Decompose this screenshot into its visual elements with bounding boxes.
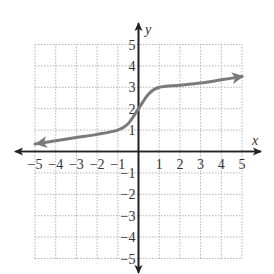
x-tick-label: 1 (156, 157, 163, 172)
y-tick-label: −5 (121, 252, 136, 267)
x-axis-label: x (251, 133, 259, 148)
y-tick-label: −4 (121, 230, 136, 245)
x-tick-label: −3 (69, 157, 84, 172)
y-tick-label: 3 (129, 80, 136, 95)
y-tick-label: −1 (121, 166, 136, 181)
y-tick-label: −3 (121, 209, 136, 224)
x-tick-label: 2 (176, 157, 183, 172)
graph: −5−4−3−2−112345−5−4−3−2−112345 x y (0, 0, 274, 274)
x-tick-label: −2 (90, 157, 105, 172)
y-axis-label: y (143, 22, 152, 37)
axes (15, 23, 261, 273)
x-tick-label: −5 (28, 157, 43, 172)
x-tick-label: 3 (197, 157, 204, 172)
coordinate-plane: −5−4−3−2−112345−5−4−3−2−112345 x y (0, 0, 274, 274)
x-tick-label: −4 (48, 157, 63, 172)
x-tick-label: 4 (218, 157, 225, 172)
x-tick-label: 5 (239, 157, 246, 172)
y-tick-label: 5 (129, 38, 136, 53)
y-tick-label: 1 (129, 123, 136, 138)
y-tick-label: −2 (121, 187, 136, 202)
y-tick-label: 4 (129, 59, 136, 74)
